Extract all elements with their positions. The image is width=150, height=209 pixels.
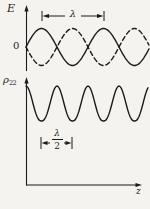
fraction-bar	[52, 139, 63, 140]
half-wavelength-fraction: λ 2	[49, 128, 65, 151]
half-wavelength-denominator: 2	[54, 141, 60, 151]
half-wavelength-left-arrowhead-icon	[42, 141, 48, 145]
half-wavelength-numerator: λ	[54, 128, 60, 138]
standing-wave-figure: E 0 λ ρ22 λ 2 z	[0, 0, 150, 209]
rho-subscript: 22	[9, 79, 16, 87]
z-axis-label: z	[136, 186, 141, 196]
wavelength-left-arrowhead-icon	[43, 14, 50, 18]
e-axis-label: E	[7, 2, 15, 15]
origin-zero-label: 0	[13, 40, 19, 51]
wavelength-label: λ	[66, 8, 80, 19]
figure-canvas	[0, 0, 150, 209]
e-field-dashed-curve	[26, 29, 149, 66]
rho22-axis-label: ρ22	[3, 74, 16, 87]
wavelength-right-arrowhead-icon	[97, 14, 104, 18]
rho-axis-up-arrow-icon	[24, 77, 28, 84]
e-axis-up-arrow-icon	[24, 5, 28, 12]
population-curve	[26, 86, 148, 121]
half-wavelength-right-arrowhead-icon	[66, 141, 72, 145]
